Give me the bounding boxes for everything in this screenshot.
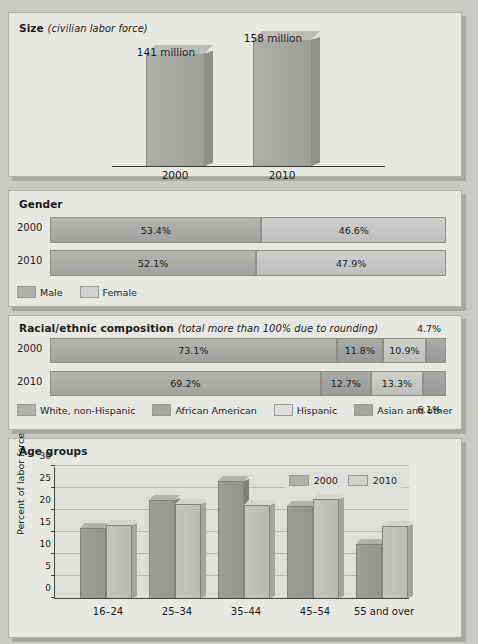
panel-size: Size (civilian labor force) 141 million … (8, 12, 462, 177)
age-ytick-10: 10 (40, 539, 51, 549)
size-column-2000 (146, 54, 204, 166)
size-column-2000-face (146, 53, 206, 166)
race-legend-label-asian: Asian and other (377, 405, 452, 416)
age-gridline-30 (55, 465, 409, 466)
age-legend-label-2010: 2010 (373, 475, 397, 486)
gender-value-female-2010: 47.9% (336, 258, 366, 269)
gender-value-male-2010: 52.1% (138, 258, 168, 269)
gender-legend-swatch-male (17, 286, 36, 298)
age-legend-swatch-2010 (348, 475, 368, 486)
gender-row-label-2000: 2000 (17, 222, 42, 233)
panel-age-title: Age groups (19, 445, 88, 457)
race-legend-item-white: White, non-Hispanic (17, 404, 135, 416)
race-callout-asian-2000: 4.7% (417, 323, 441, 334)
age-bar-2010-35-44 (244, 505, 270, 598)
age-xtick-25-34: 25–34 (162, 606, 192, 617)
size-column-2010 (253, 40, 311, 166)
age-xtick-55-and-over: 55 and over (354, 606, 414, 617)
age-xtick-16-24: 16–24 (93, 606, 123, 617)
race-value-hispanic-2010: 13.3% (382, 378, 412, 389)
race-segment-asian-2000 (426, 338, 446, 363)
age-bar-2010-16-24 (106, 525, 132, 598)
race-legend-swatch-hispanic (274, 404, 293, 416)
age-ytick-15: 15 (40, 517, 51, 527)
size-column-2000-side (204, 51, 213, 166)
race-value-hispanic-2000: 10.9% (389, 345, 419, 356)
gender-segment-female-2000: 46.6% (261, 217, 446, 243)
panel-gender: Gender 2000 53.4% 46.6% 2010 52.1% 47.9% (8, 190, 462, 307)
age-ytick-25: 25 (40, 473, 51, 483)
gender-segment-female-2010: 47.9% (256, 250, 446, 276)
race-legend-swatch-african-american (152, 404, 171, 416)
age-legend-swatch-2000 (289, 475, 309, 486)
gender-segment-male-2010: 52.1% (50, 250, 256, 276)
age-y-axis-title: Percent of labor force (15, 433, 26, 535)
gender-bar-2010: 52.1% 47.9% (50, 250, 446, 276)
age-ytick-30: 30 (40, 451, 51, 461)
age-legend: 2000 2010 (285, 473, 401, 488)
size-chart: 141 million 2000 158 million 2010 (9, 13, 461, 176)
panel-race-subtitle: (total more than 100% due to rounding) (178, 323, 379, 334)
age-ytick-0: 0 (45, 583, 51, 593)
age-bar-2010-45-54 (313, 499, 339, 598)
panel-race-title-text: Racial/ethnic composition (19, 322, 174, 334)
race-legend-item-hispanic: Hispanic (274, 404, 337, 416)
size-column-2010-face (253, 39, 313, 166)
gender-legend-label-male: Male (40, 287, 63, 298)
race-segment-hispanic-2010: 13.3% (371, 371, 423, 396)
race-row-label-2000: 2000 (17, 343, 42, 354)
age-ytick-5: 5 (45, 561, 51, 571)
infographic-page: Size (civilian labor force) 141 million … (0, 0, 478, 644)
size-value-2000: 141 million (96, 46, 236, 58)
size-baseline (112, 166, 385, 167)
gender-segment-male-2000: 53.4% (50, 217, 261, 243)
race-segment-asian-2010 (423, 371, 446, 396)
race-legend-swatch-white (17, 404, 36, 416)
race-segment-white-2000: 73.1% (50, 338, 337, 363)
age-bar-2000-16-24 (80, 528, 106, 598)
race-row-label-2010: 2010 (17, 376, 42, 387)
size-column-2010-side (311, 37, 320, 166)
race-value-white-2010: 69.2% (170, 378, 200, 389)
gender-legend-item-female: Female (80, 286, 137, 298)
race-legend: White, non-Hispanic African American His… (17, 404, 464, 416)
gender-row-label-2010: 2010 (17, 255, 42, 266)
size-value-2010: 158 million (203, 32, 343, 44)
race-value-white-2000: 73.1% (178, 345, 208, 356)
race-segment-african-american-2010: 12.7% (321, 371, 371, 396)
age-xtick-45-54: 45–54 (300, 606, 330, 617)
age-ytick-20: 20 (40, 495, 51, 505)
race-legend-label-white: White, non-Hispanic (40, 405, 135, 416)
age-bar-2010-25-34 (175, 504, 201, 598)
gender-value-female-2000: 46.6% (339, 225, 369, 236)
race-segment-african-american-2000: 11.8% (337, 338, 383, 363)
age-bar-2000-35-44 (218, 481, 244, 598)
gender-legend-label-female: Female (103, 287, 137, 298)
race-segment-white-2010: 69.2% (50, 371, 321, 396)
gender-legend: Male Female (17, 286, 149, 298)
gender-bar-2000: 53.4% 46.6% (50, 217, 446, 243)
race-legend-label-african-american: African American (175, 405, 256, 416)
age-chart-plot: 30 25 20 15 10 5 0 16–24 (54, 467, 409, 599)
age-legend-item-2000: 2000 (289, 475, 338, 486)
race-bar-2010: 69.2% 12.7% 13.3% (50, 371, 446, 396)
age-bar-2010-55-and-over (382, 526, 408, 598)
age-bar-2000-45-54 (287, 506, 313, 598)
race-value-african-american-2000: 11.8% (345, 345, 375, 356)
gender-legend-item-male: Male (17, 286, 63, 298)
age-legend-label-2000: 2000 (314, 475, 338, 486)
gender-legend-swatch-female (80, 286, 99, 298)
size-label-2000: 2000 (146, 169, 204, 181)
race-legend-swatch-asian (354, 404, 373, 416)
size-label-2010: 2010 (253, 169, 311, 181)
race-legend-item-african-american: African American (152, 404, 256, 416)
race-bar-2000: 73.1% 11.8% 10.9% (50, 338, 446, 363)
panel-gender-title-text: Gender (19, 198, 63, 210)
age-xtick-35-44: 35–44 (231, 606, 261, 617)
age-bar-2000-55-and-over (356, 544, 382, 598)
panel-age: Age groups Percent of labor force 30 25 … (8, 438, 462, 638)
age-legend-item-2010: 2010 (348, 475, 397, 486)
race-legend-item-asian: Asian and other (354, 404, 452, 416)
race-legend-label-hispanic: Hispanic (297, 405, 337, 416)
panel-race: Racial/ethnic composition (total more th… (8, 315, 462, 430)
